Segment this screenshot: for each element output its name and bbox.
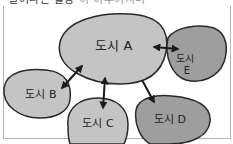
city-c-node: 도시 C (68, 98, 128, 144)
city-b-label: 도시 B (25, 88, 56, 101)
city-d-node: 도시 D (136, 96, 211, 144)
city-d-label: 도시 D (154, 113, 186, 126)
city-e-node: 도시 E (167, 26, 226, 81)
city-b-node: 도시 B (4, 70, 71, 118)
city-e-label-bottom: E (184, 65, 190, 76)
city-c-label: 도시 C (82, 117, 113, 130)
city-network-diagram: 도시 A 도시 E 도시 B 도시 C 도시 D (0, 0, 233, 144)
city-e-label-top: 도시 (176, 53, 194, 64)
city-a-label: 도시 A (95, 38, 132, 53)
